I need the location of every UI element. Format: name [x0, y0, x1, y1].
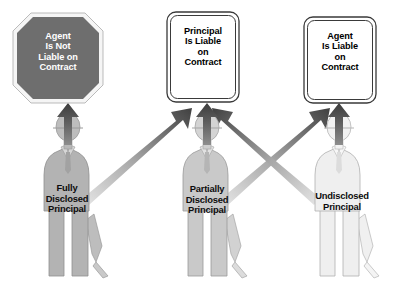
connector-partially-to-agent-liable [222, 108, 330, 205]
outcome-agent-not-liable [13, 13, 103, 103]
diagram-canvas [0, 0, 403, 286]
figure-undisclosed-principal [315, 113, 379, 278]
outcome-agent-liable [304, 17, 376, 103]
liability-diagram: Agent Is Not Liable on Contract Principa… [0, 0, 403, 286]
outcome-principal-liable [167, 12, 239, 102]
connector-fully-to-principal-liable [83, 108, 192, 205]
